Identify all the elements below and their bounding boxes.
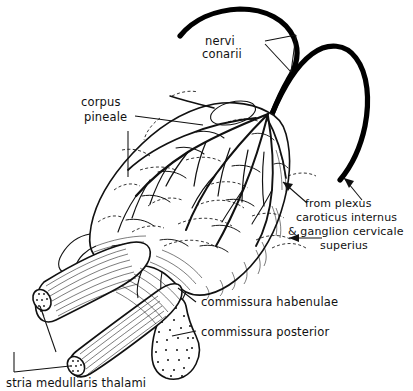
label-commissura-habenulae: commissura habenulae <box>201 295 338 309</box>
label-nervi-conarii-line2: conarii <box>202 47 242 61</box>
leader-nervi-conarii-lower <box>265 44 291 72</box>
label-from-plexus-line2: caroticus internus <box>296 211 397 224</box>
label-corpus-pineale-line1: corpus <box>81 95 121 109</box>
nervi-conarii-cord-right-taper <box>340 160 353 180</box>
label-from-plexus: from plexus caroticus internus & ganglio… <box>288 197 404 252</box>
label-corpus-pineale: corpus pineale <box>81 95 127 124</box>
label-nervi-conarii-line1: nervi <box>205 34 235 48</box>
label-stria-medullaris-thalami: stria medullaris thalami <box>6 376 146 390</box>
label-from-plexus-line1: from plexus <box>305 197 372 210</box>
anatomical-figure: nervi conarii corpus pineale from plexus… <box>0 0 413 391</box>
label-from-plexus-line3: & ganglion cervicale <box>288 225 404 238</box>
label-from-plexus-line4: superius <box>320 239 368 252</box>
leader-stria-medullaris-h <box>14 366 70 372</box>
pineal-innervation-illustration: nervi conarii corpus pineale from plexus… <box>0 0 413 391</box>
label-corpus-pineale-line2: pineale <box>84 110 127 124</box>
label-commissura-posterior: commissura posterior <box>201 325 329 339</box>
label-nervi-conarii: nervi conarii <box>202 34 242 61</box>
